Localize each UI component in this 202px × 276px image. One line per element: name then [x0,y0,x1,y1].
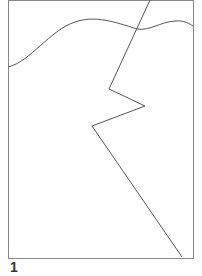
zigzag-line [92,0,182,257]
frame-border [9,1,194,259]
figure-number-label: 1 [10,259,18,275]
wavy-line [8,19,193,67]
diagram-figure [0,0,202,276]
